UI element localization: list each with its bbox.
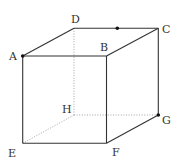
visible-edges	[23, 28, 159, 143]
label-G: G	[162, 114, 171, 127]
label-B: B	[100, 41, 108, 54]
edge-DA	[23, 28, 74, 56]
point-on-DC	[116, 27, 120, 31]
edge-BC	[107, 28, 159, 56]
label-H: H	[62, 103, 72, 116]
point-A	[21, 54, 25, 58]
label-C: C	[162, 23, 170, 36]
edge-EH	[23, 115, 74, 143]
cube-figure: A B C D E F G H	[0, 0, 178, 162]
label-F: F	[112, 146, 120, 159]
marked-points	[21, 27, 160, 117]
edge-FG	[107, 115, 159, 143]
label-D: D	[71, 13, 80, 26]
label-E: E	[8, 147, 16, 160]
label-A: A	[8, 50, 18, 63]
point-G	[157, 113, 161, 117]
cube-diagram: A B C D E F G H	[0, 0, 178, 162]
